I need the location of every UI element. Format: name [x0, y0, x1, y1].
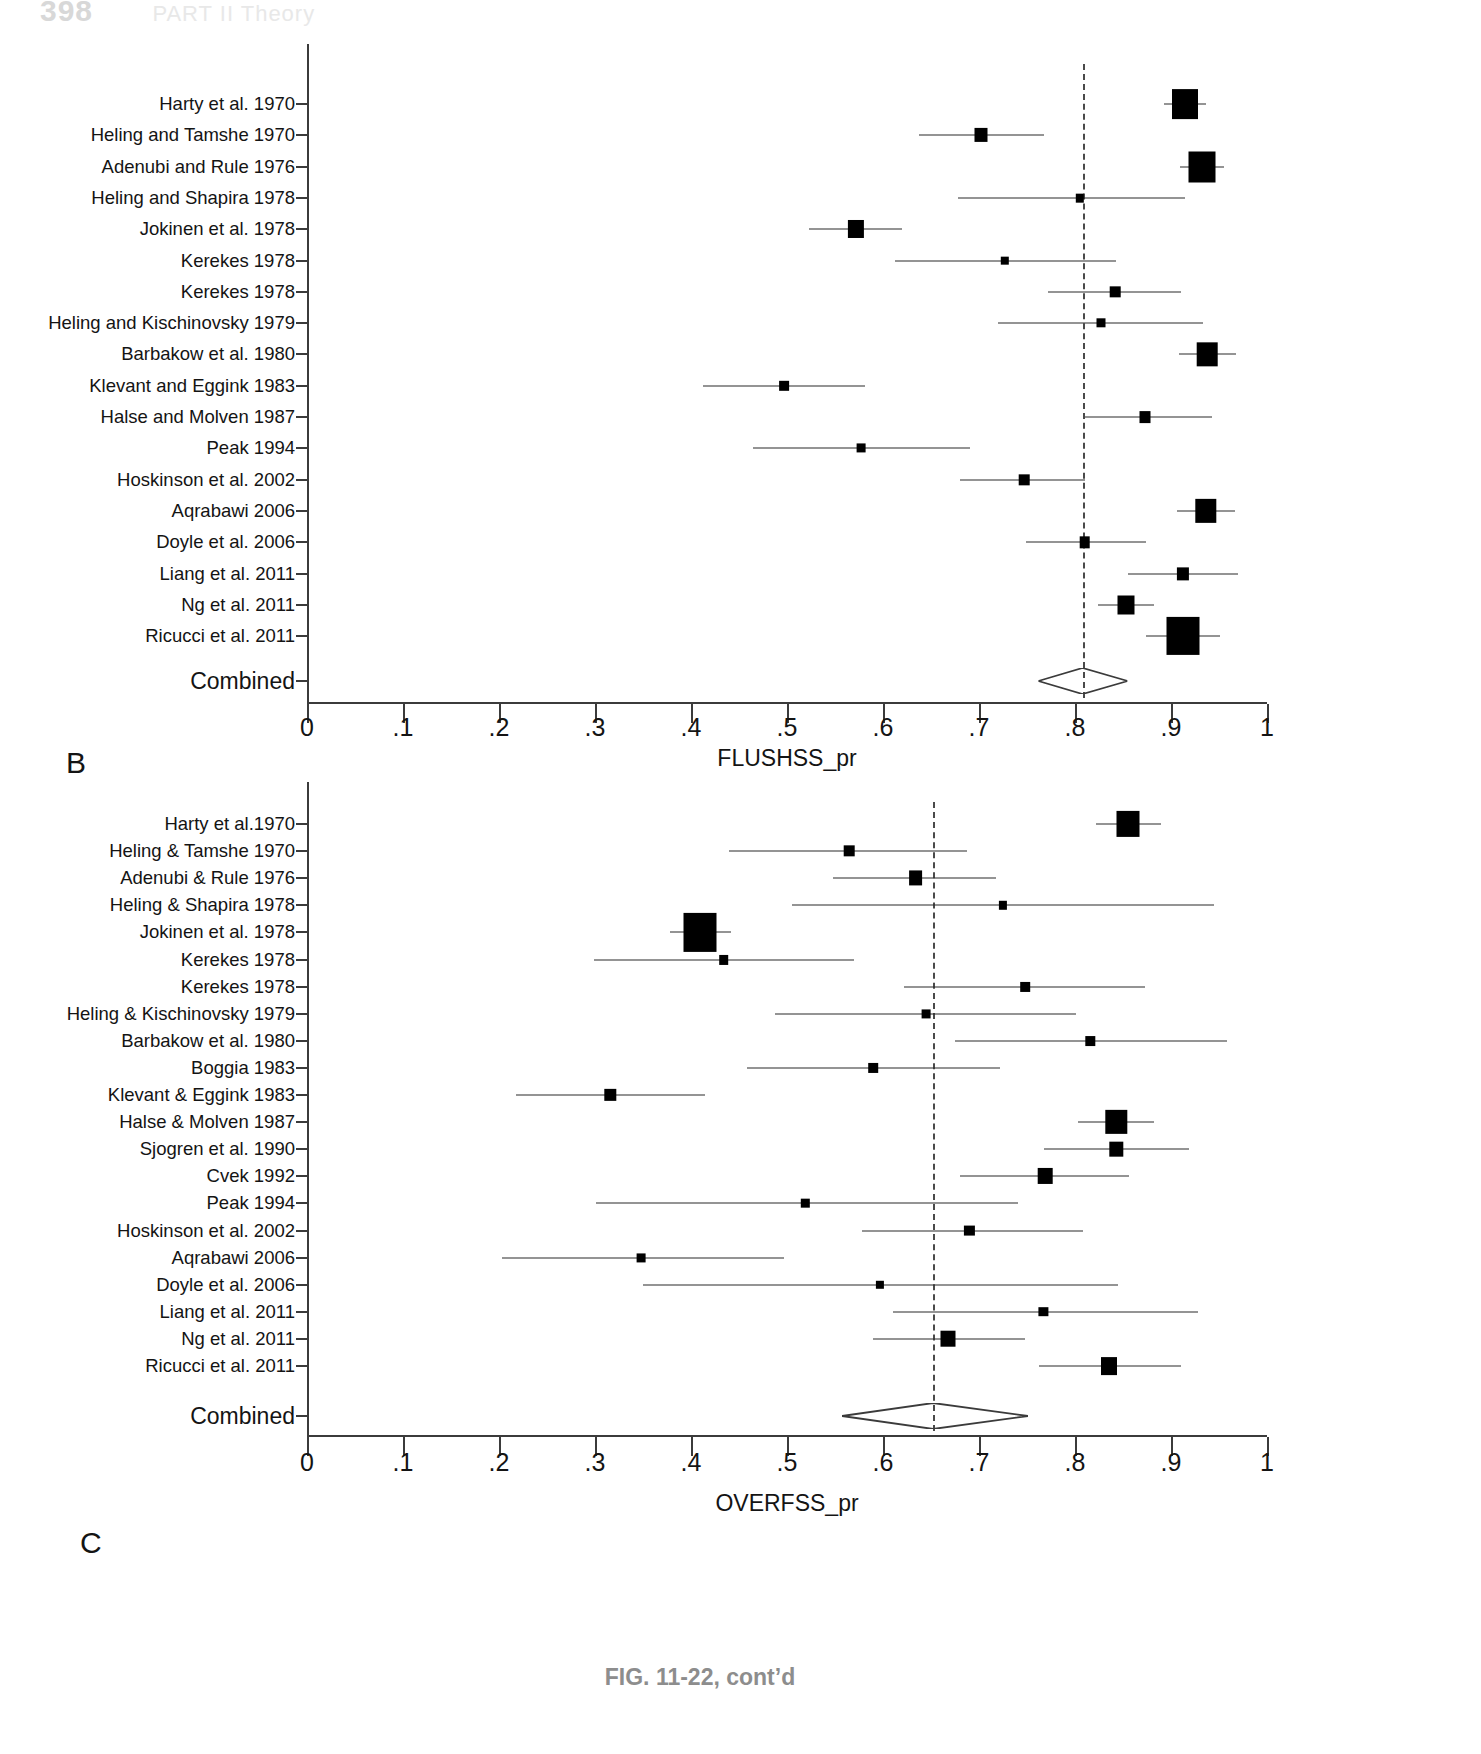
- study-label: Klevant & Eggink 1983: [108, 1084, 295, 1106]
- study-label: Heling & Shapira 1978: [110, 894, 295, 916]
- effect-estimate-marker: [941, 1331, 956, 1348]
- study-axis-tick: [296, 1094, 309, 1096]
- effect-estimate-marker: [1101, 1357, 1117, 1375]
- effect-estimate-marker: [605, 1089, 616, 1101]
- study-axis-tick: [296, 904, 309, 906]
- study-axis-tick: [296, 877, 309, 879]
- effect-estimate-marker: [964, 1225, 974, 1236]
- effect-estimate-marker: [876, 1280, 884, 1288]
- figure-page: 398 PART II Theory Harty et al. 1970Heli…: [0, 0, 1481, 1754]
- effect-estimate-marker: [1106, 1110, 1127, 1134]
- x-axis-tick-label: .1: [393, 1448, 414, 1477]
- study-label: Kerekes 1978: [181, 949, 295, 971]
- study-label: Liang et al. 2011: [160, 1301, 295, 1323]
- study-axis-tick: [296, 931, 309, 933]
- study-axis-tick: [296, 1338, 309, 1340]
- effect-estimate-marker: [999, 901, 1007, 909]
- study-label: Barbakow et al. 1980: [121, 1030, 295, 1052]
- study-axis-tick: [296, 1311, 309, 1313]
- study-label: Aqrabawi 2006: [172, 1247, 295, 1269]
- study-axis-tick: [296, 1148, 309, 1150]
- effect-estimate-marker: [683, 913, 716, 951]
- study-label: Ng et al. 2011: [181, 1328, 295, 1350]
- x-axis-tick-label: .7: [969, 1448, 990, 1477]
- study-axis-tick: [296, 1230, 309, 1232]
- study-label: Peak 1994: [207, 1192, 295, 1214]
- effect-estimate-marker: [869, 1063, 879, 1073]
- x-axis-tick-label: .9: [1161, 1448, 1182, 1477]
- combined-axis-tick: [296, 1415, 309, 1417]
- study-axis-tick: [296, 823, 309, 825]
- effect-estimate-marker: [1039, 1307, 1048, 1317]
- pooled-effect-reference-line: [933, 802, 935, 1431]
- study-axis-tick: [296, 1175, 309, 1177]
- x-axis-tick-label: .8: [1065, 1448, 1086, 1477]
- study-label: Harty et al.1970: [164, 813, 295, 835]
- study-label: Cvek 1992: [207, 1165, 295, 1187]
- study-label: Doyle et al. 2006: [156, 1274, 295, 1296]
- study-axis-tick: [296, 959, 309, 961]
- panel-letter-c: C: [80, 1526, 102, 1560]
- study-label: Kerekes 1978: [181, 976, 295, 998]
- study-label: Boggia 1983: [191, 1057, 295, 1079]
- study-axis-tick: [296, 986, 309, 988]
- study-axis-tick: [296, 1013, 309, 1015]
- effect-estimate-marker: [801, 1199, 809, 1208]
- study-label: Heling & Tamshe 1970: [109, 840, 295, 862]
- effect-estimate-marker: [844, 845, 855, 856]
- study-axis-tick: [296, 1121, 309, 1123]
- panel-letter-b: B: [66, 746, 86, 780]
- effect-estimate-marker: [1110, 1142, 1123, 1157]
- effect-estimate-marker: [922, 1009, 931, 1018]
- effect-estimate-marker: [1038, 1168, 1053, 1184]
- x-axis-tick-label: 1: [1260, 1448, 1274, 1477]
- study-label: Halse & Molven 1987: [119, 1111, 295, 1133]
- study-axis-tick: [296, 1284, 309, 1286]
- x-axis-tick-label: .6: [873, 1448, 894, 1477]
- x-axis-tick-label: 0: [300, 1448, 314, 1477]
- study-axis-tick: [296, 1365, 309, 1367]
- figure-caption: FIG. 11-22, cont’d: [605, 1664, 795, 1691]
- panel-b-forest-plot: Harty et al.1970Heling & Tamshe 1970Aden…: [0, 0, 1481, 1754]
- study-axis-tick: [296, 1257, 309, 1259]
- study-axis-tick: [296, 850, 309, 852]
- study-label: Jokinen et al. 1978: [140, 921, 295, 943]
- combined-label: Combined: [190, 1403, 295, 1430]
- effect-estimate-marker: [637, 1253, 646, 1262]
- study-axis-tick: [296, 1040, 309, 1042]
- effect-estimate-marker: [909, 871, 923, 886]
- study-axis-tick: [296, 1202, 309, 1204]
- study-axis-tick: [296, 1067, 309, 1069]
- x-axis-tick-label: .5: [777, 1448, 798, 1477]
- x-axis-tick-label: .3: [585, 1448, 606, 1477]
- study-label: Hoskinson et al. 2002: [117, 1220, 295, 1242]
- summary-diamond: [842, 1403, 1028, 1429]
- study-label: Sjogren et al. 1990: [140, 1138, 295, 1160]
- x-axis-tick-label: .2: [489, 1448, 510, 1477]
- x-axis-tick-label: .4: [681, 1448, 702, 1477]
- study-label: Adenubi & Rule 1976: [120, 867, 295, 889]
- study-label: Ricucci et al. 2011: [145, 1355, 295, 1377]
- study-label: Heling & Kischinovsky 1979: [67, 1003, 295, 1025]
- effect-estimate-marker: [1020, 982, 1030, 992]
- x-axis-title: OVERFSS_pr: [715, 1490, 858, 1517]
- effect-estimate-marker: [1116, 811, 1139, 837]
- effect-estimate-marker: [719, 954, 729, 964]
- effect-estimate-marker: [1086, 1036, 1095, 1046]
